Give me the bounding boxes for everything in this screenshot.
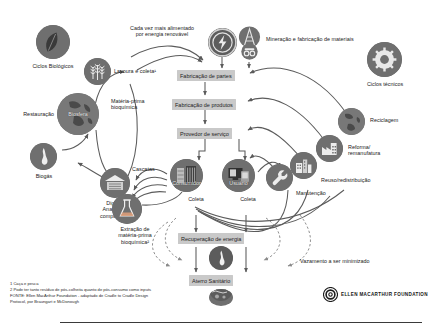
node-consumidor-label: Consumidor — [170, 180, 203, 186]
wrench-icon — [266, 164, 293, 191]
footnote-1: 1 Caça e pesca — [10, 281, 250, 286]
label-ciclos-biologicos: Ciclos Biológicos — [16, 63, 90, 69]
box-fabricacao-partes[interactable]: Fabricação de partes — [177, 70, 235, 81]
flame-icon — [30, 143, 57, 170]
footer-divider — [60, 322, 422, 323]
factory-icon — [316, 135, 343, 162]
node-recuperacao-flame — [209, 246, 233, 270]
node-biosfera-label: Biosfera — [57, 111, 99, 117]
ellen-macarthur-logo: ELLEN MACARTHUR FOUNDATION — [323, 287, 428, 302]
buildings-icon — [290, 152, 317, 179]
node-manutencao[interactable] — [266, 164, 293, 191]
footnote-2: 2 Pode ter tanto resíduo de pós-colheita… — [10, 287, 260, 292]
node-consumidor[interactable]: Consumidor — [170, 159, 203, 192]
energy-bolt-icon — [208, 28, 237, 57]
label-restauracao: Restauração — [2, 111, 54, 117]
label-coleta-usuario: Coleta — [226, 196, 270, 202]
ellen-macarthur-name: ELLEN MACARTHUR FOUNDATION — [341, 292, 428, 297]
source-line-1: FONTE: Ellen MacArthur Foundation - adap… — [10, 293, 260, 298]
label-coleta-consumidor: Coleta — [174, 196, 218, 202]
label-manutencao: Manutenção — [296, 190, 346, 196]
label-biogas: Biogás — [22, 173, 66, 179]
node-energia-renovavel[interactable] — [208, 28, 237, 57]
box-fabricacao-produtos[interactable]: Fabricação de produtos — [172, 99, 236, 110]
shelf-icon — [170, 159, 203, 192]
label-reforma: Reforma/ remanufatura — [348, 144, 402, 157]
node-usuario[interactable]: Usuário — [222, 159, 255, 192]
diagram-canvas: Cada vez mais alimentado por energia ren… — [0, 0, 438, 330]
node-ciclos-biologicos[interactable] — [36, 25, 70, 59]
node-biosfera[interactable]: Biosfera — [57, 93, 99, 135]
gear-icon — [367, 42, 402, 77]
leaf-icon — [36, 25, 70, 59]
node-usuario-label: Usuário — [222, 180, 255, 186]
node-ciclos-tecnicos[interactable] — [367, 42, 402, 77]
recycle-globe-icon — [338, 108, 365, 135]
node-reuso[interactable] — [290, 152, 317, 179]
box-provedor-servico[interactable]: Provedor de serviço — [177, 128, 232, 139]
box-recuperacao-energia[interactable]: Recuperação de energia — [178, 233, 244, 244]
node-lavoura[interactable] — [84, 58, 111, 85]
label-renewable-energy: Cada vez mais alimentado por energia ren… — [116, 25, 208, 38]
label-reuso: Reuso/redistribuição — [321, 177, 395, 183]
concentric-circle-logo — [323, 287, 338, 302]
label-ciclos-tecnicos: Ciclos técnicos — [356, 81, 414, 87]
node-extracao[interactable] — [112, 194, 142, 224]
label-extracao: Extração de matéria-prima bioquímica² — [104, 226, 166, 245]
label-biochem-feedstock: Matéria-prima bioquímica — [111, 98, 173, 111]
label-reciclagem: Reciclagem — [370, 117, 428, 123]
wheat-icon — [84, 58, 111, 85]
mining-rig-icon — [236, 26, 263, 60]
node-biogas[interactable] — [30, 143, 57, 170]
label-vazamento: Vazamento a ser minimizado — [300, 258, 430, 264]
monitor-icon — [222, 159, 255, 192]
flask-icon — [112, 194, 142, 224]
node-mineracao[interactable] — [236, 26, 263, 60]
flame-icon — [209, 246, 233, 270]
node-reciclagem[interactable] — [338, 108, 365, 135]
source-line-2: Protocol, por Braungart e McDonough — [10, 299, 260, 304]
node-reforma[interactable] — [316, 135, 343, 162]
